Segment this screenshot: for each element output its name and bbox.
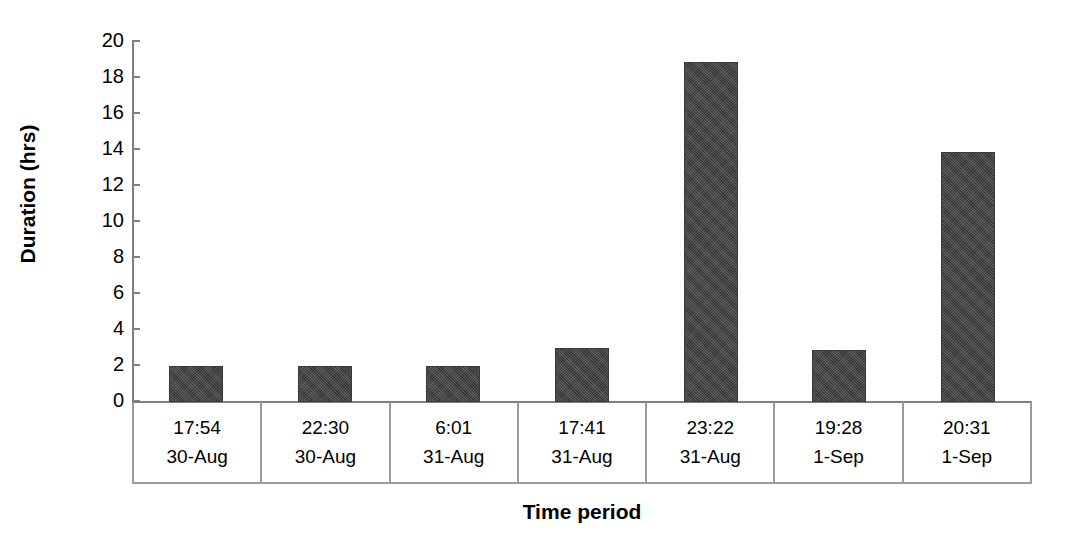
x-axis-category-cell: 22:3030-Aug [262, 402, 390, 482]
y-axis-tick-label: 2 [54, 354, 124, 374]
bar[interactable] [169, 366, 223, 402]
y-axis-tick-label-wrap: 20 [52, 30, 124, 50]
y-axis-tick-label: 6 [54, 282, 124, 302]
x-axis-category-cell: 19:281-Sep [775, 402, 903, 482]
x-axis-date-label: 30-Aug [295, 447, 356, 467]
bar[interactable] [555, 348, 609, 402]
bar-slot [132, 41, 261, 402]
bar-slot [775, 41, 904, 402]
x-axis-time-label: 17:41 [558, 418, 606, 438]
bar-slot [646, 41, 775, 402]
x-axis-date-label: 1-Sep [941, 447, 992, 467]
y-axis-tick-label: 4 [54, 318, 124, 338]
y-axis-tick-label: 12 [54, 174, 124, 194]
bar[interactable] [426, 366, 480, 402]
y-axis-title: Duration (hrs) [16, 104, 40, 284]
bar[interactable] [941, 152, 995, 402]
x-axis-label-table: 17:5430-Aug22:3030-Aug6:0131-Aug17:4131-… [132, 402, 1032, 484]
y-axis-tick-label: 0 [54, 390, 124, 410]
x-axis-category-cell: 23:2231-Aug [647, 402, 775, 482]
y-axis-tick-label-wrap: 2 [52, 354, 124, 374]
x-axis-date-label: 31-Aug [551, 447, 612, 467]
x-axis-category-cell: 17:5430-Aug [134, 402, 262, 482]
y-axis-tick-label-wrap: 6 [52, 282, 124, 302]
x-axis-date-label: 30-Aug [167, 447, 228, 467]
y-axis-tick-label: 18 [54, 66, 124, 86]
y-axis-tick-label-wrap: 4 [52, 318, 124, 338]
y-axis-tick-label-wrap: 18 [52, 66, 124, 86]
bars-layer [132, 41, 1032, 402]
y-axis-tick-label-wrap: 8 [52, 246, 124, 266]
x-axis-time-label: 23:22 [686, 418, 734, 438]
bar-slot [518, 41, 647, 402]
y-axis-tick-label-wrap: 14 [52, 138, 124, 158]
x-axis-time-label: 22:30 [302, 418, 350, 438]
y-axis-tick-label: 20 [54, 30, 124, 50]
x-axis-time-label: 6:01 [435, 418, 472, 438]
bar[interactable] [684, 62, 738, 402]
x-axis-time-label: 17:54 [173, 418, 221, 438]
x-axis-category-cell: 6:0131-Aug [391, 402, 519, 482]
bar-slot [903, 41, 1032, 402]
x-axis-category-cell: 20:311-Sep [904, 402, 1030, 482]
x-axis-time-label: 19:28 [815, 418, 863, 438]
y-axis-tick-label-wrap: 0 [52, 390, 124, 410]
bar-chart: Duration (hrs) 20181614121086420 17:5430… [0, 0, 1086, 547]
y-axis-tick-label: 16 [54, 102, 124, 122]
bar[interactable] [812, 350, 866, 402]
x-axis-date-label: 31-Aug [423, 447, 484, 467]
y-axis-tick-label: 10 [54, 210, 124, 230]
bar-slot [389, 41, 518, 402]
bar-slot [261, 41, 390, 402]
x-axis-date-label: 1-Sep [813, 447, 864, 467]
y-axis-tick-label-wrap: 16 [52, 102, 124, 122]
x-axis-time-label: 20:31 [943, 418, 991, 438]
x-axis-date-label: 31-Aug [680, 447, 741, 467]
y-axis-tick-label: 14 [54, 138, 124, 158]
bar[interactable] [298, 366, 352, 402]
y-axis-tick-label: 8 [54, 246, 124, 266]
y-axis-tick-label-wrap: 10 [52, 210, 124, 230]
y-axis-tick-label-wrap: 12 [52, 174, 124, 194]
x-axis-title: Time period [132, 500, 1032, 524]
x-axis-category-cell: 17:4131-Aug [519, 402, 647, 482]
